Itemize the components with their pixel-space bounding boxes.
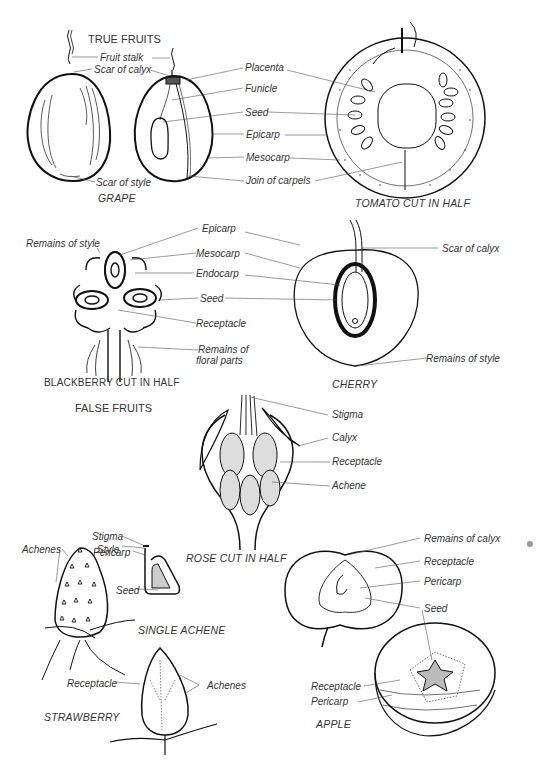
caption-strawberry: STRAWBERRY (44, 711, 120, 723)
label-stigma: Stigma (332, 409, 363, 420)
single-achene-drawing (143, 546, 180, 594)
label-funicle: Funicle (245, 83, 277, 94)
strawberry-drawing (42, 548, 135, 680)
caption-blackberry: BLACKBERRY CUT IN HALF (44, 377, 180, 388)
label-calyx: Calyx (332, 432, 357, 443)
label-seed: Seed (116, 585, 139, 596)
label-seed: Seed (200, 293, 223, 304)
label-receptacle: Receptacle (67, 678, 117, 689)
heading-true-fruits: TRUE FRUITS (88, 33, 161, 45)
label-remains-of-calyx: Remains of calyx (424, 533, 500, 544)
stray-dot (527, 541, 533, 547)
label-achenes-top: Achenes (22, 544, 61, 555)
tomato-drawing (325, 22, 485, 198)
caption-apple: APPLE (316, 718, 351, 730)
label-mesocarp: Mesocarp (196, 248, 240, 259)
label-remains-of-style: Remains of style (26, 238, 100, 249)
label-remains-of-style: Remains of style (426, 353, 500, 364)
label-fruit-stalk: Fruit stalk (100, 52, 143, 63)
heading-false-fruits: FALSE FRUITS (75, 402, 152, 414)
label-stigma: Stigma (92, 531, 123, 542)
apple-cut-drawing (285, 551, 402, 647)
label-scar-of-calyx: Scar of calyx (442, 243, 499, 254)
label-pericarp-2: Pericarp (311, 696, 348, 707)
label-receptacle: Receptacle (196, 318, 246, 329)
grape-whole-drawing (27, 30, 110, 181)
caption-single-achene: SINGLE ACHENE (138, 624, 225, 636)
blackberry-drawing (74, 252, 162, 382)
caption-tomato: TOMATO CUT IN HALF (355, 197, 470, 209)
strawberry-cut-drawing (110, 648, 217, 755)
label-remains-of-floral-parts-2: floral parts (196, 355, 243, 366)
apple-transverse-drawing (375, 623, 495, 736)
label-placenta: Placenta (245, 62, 284, 73)
label-receptacle-2: Receptacle (311, 681, 361, 692)
label-epicarp: Epicarp (202, 223, 236, 234)
label-seed: Seed (245, 107, 268, 118)
label-endocarp: Endocarp (196, 268, 239, 279)
label-receptacle: Receptacle (424, 556, 474, 567)
label-join-of-carpels: Join of carpels (246, 175, 310, 186)
label-achenes: Achenes (207, 680, 246, 691)
label-epicarp: Epicarp (246, 129, 280, 140)
strawberry-seeds (60, 548, 96, 622)
label-mesocarp: Mesocarp (246, 152, 290, 163)
caption-rose: ROSE CUT IN HALF (186, 552, 287, 564)
label-pericarp: Pericarp (424, 576, 461, 587)
label-seed: Seed (424, 603, 447, 614)
label-scar-of-style: Scar of style (96, 177, 151, 188)
label-achene: Achene (332, 480, 366, 491)
cherry-drawing (294, 220, 418, 366)
label-receptacle: Receptacle (332, 456, 382, 467)
caption-grape: GRAPE (98, 192, 136, 204)
rose-drawing (200, 395, 300, 550)
label-remains-of-floral-parts-1: Remains of (198, 344, 249, 355)
label-scar-of-calyx: Scar of calyx (94, 64, 151, 75)
label-pericarp: Pericarp (93, 547, 130, 558)
caption-cherry: CHERRY (332, 378, 377, 390)
